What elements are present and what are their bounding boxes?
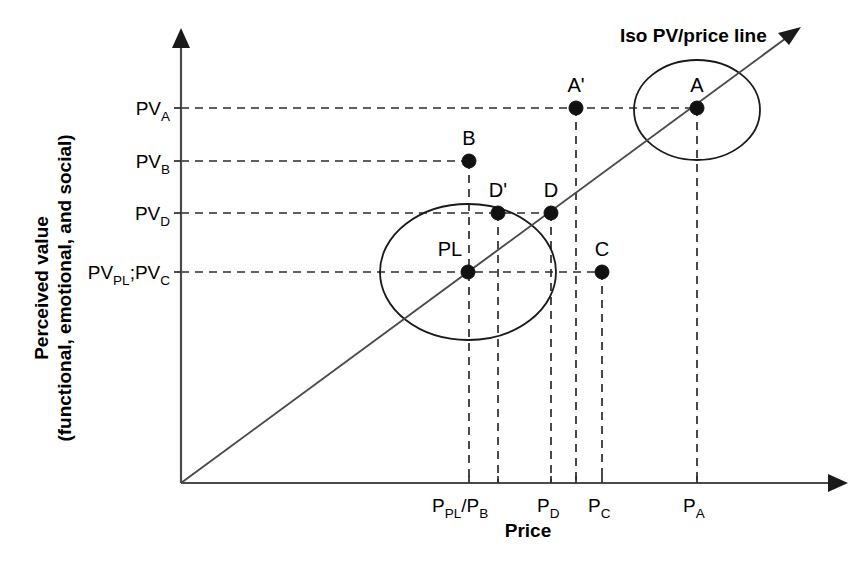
x-tick-label-price-pl-sub: PL <box>445 506 462 521</box>
data-point-b[interactable] <box>462 154 476 168</box>
y-tick-label-pv-pl-base: PV <box>88 262 114 283</box>
x-tick-label-price-d-sub: D <box>550 506 560 521</box>
data-point-c[interactable] <box>595 265 609 279</box>
x-tick-label-price-pl-b: PPL/PB <box>432 495 488 521</box>
point-label-d-prime: D' <box>489 179 507 201</box>
y-tick-label-pv-b-base: PV <box>136 151 162 172</box>
y-tick-label-pv-d-base: PV <box>135 203 161 224</box>
y-tick-label-pv-a-base: PV <box>136 98 162 119</box>
y-axis-title-line1: Perceived value <box>31 216 52 360</box>
y-tick-label-pv-a-sub: A <box>161 109 170 124</box>
y-tick-label-pv-pl-c: PVPL;PVC <box>88 262 171 288</box>
x-tick-label-price-c-sub: C <box>601 506 611 521</box>
y-tick-label-pv-pl-sub: PL <box>113 273 130 288</box>
iso-line-caption: Iso PV/price line <box>620 25 767 46</box>
iso-line-segment <box>181 33 793 483</box>
x-tick-label-price-a-sub: A <box>696 506 705 521</box>
vertical-guides <box>469 108 697 483</box>
y-axis-arrowhead <box>172 28 190 48</box>
point-label-b: B <box>462 127 475 149</box>
x-tick-label-price-d: PD <box>537 495 560 521</box>
y-tick-label-pv-a: PVA <box>136 98 170 124</box>
x-axis-title: Price <box>505 520 551 541</box>
x-tick-label-price-c: PC <box>588 495 611 521</box>
x-tick-label-price-pl-base: P <box>432 495 445 516</box>
x-tick-label-price-a-base: P <box>683 495 696 516</box>
x-tick-label-price-c-base: P <box>588 495 601 516</box>
y-tick-label-pv-c-sub: C <box>160 273 170 288</box>
point-label-a-prime: A' <box>567 74 584 96</box>
point-label-pl: PL <box>438 238 462 260</box>
data-point-a-prime[interactable] <box>569 101 583 115</box>
y-tick-label-pv-b: PVB <box>136 151 170 177</box>
data-point-labels: A A' B D D' C PL <box>438 74 705 260</box>
x-tick-label-price-a: PA <box>683 495 705 521</box>
x-tick-label-price-b-base: /P <box>461 495 479 516</box>
x-axis <box>181 474 848 492</box>
y-axis-title-line2: (functional, emotional, and social) <box>54 134 75 441</box>
y-axis-tick-labels: PVA PVB PVD PVPL;PVC <box>88 98 171 288</box>
x-axis-tick-labels: PPL/PB PD PC PA <box>432 495 705 521</box>
data-point-pl[interactable] <box>461 265 475 279</box>
data-point-d-prime[interactable] <box>491 206 505 220</box>
y-tick-label-pv-b-sub: B <box>161 162 170 177</box>
y-axis <box>172 28 190 483</box>
x-tick-label-price-d-base: P <box>537 495 550 516</box>
data-point-a[interactable] <box>690 101 704 115</box>
y-tick-label-pv-d: PVD <box>135 203 170 229</box>
y-tick-label-pv-c-base: ;PV <box>130 262 161 283</box>
point-label-a: A <box>690 74 704 96</box>
diagram-canvas: A A' B D D' C PL PVA PVB PVD PVPL;PVC <box>0 0 868 566</box>
x-tick-label-price-b-sub: B <box>479 506 488 521</box>
iso-pv-price-diagram: A A' B D D' C PL PVA PVB PVD PVPL;PVC <box>0 0 868 566</box>
data-point-d[interactable] <box>544 206 558 220</box>
point-label-c: C <box>595 238 609 260</box>
x-axis-arrowhead <box>828 474 848 492</box>
point-label-d: D <box>544 179 558 201</box>
iso-pv-price-line <box>181 27 801 483</box>
y-tick-label-pv-d-sub: D <box>160 214 170 229</box>
